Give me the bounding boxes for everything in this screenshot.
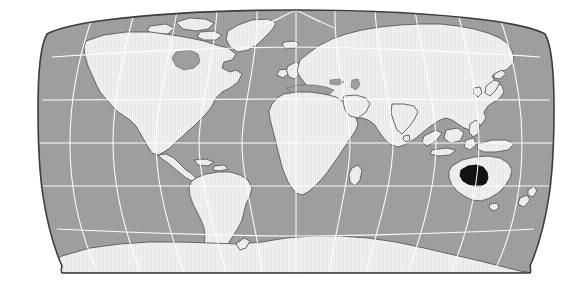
world-map-figure: Australia Northern Territory Robinson <box>0 0 588 288</box>
world-map-svg <box>0 0 588 288</box>
